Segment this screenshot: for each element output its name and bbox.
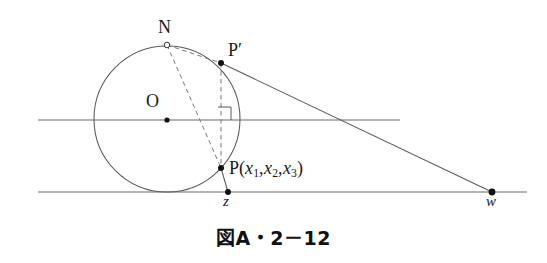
north-pole-point-n: [164, 42, 170, 48]
label-p-paren-close: ): [297, 158, 303, 178]
dashed-line-n-to-pprime: [167, 45, 221, 63]
label-p-var-2: x: [264, 158, 272, 178]
figure-page: N P′ O P(x1,x2,x3) z w 図A・2－12: [0, 0, 547, 263]
label-point-p-coordinates: P(x1,x2,x3): [229, 159, 303, 180]
center-point-o: [164, 117, 169, 122]
label-center-o: O: [146, 92, 159, 110]
point-p: [218, 165, 224, 171]
point-p-prime: [218, 60, 224, 66]
figure-caption: 図A・2－12: [0, 223, 547, 250]
label-p-var-3: x: [283, 158, 291, 178]
label-point-z: z: [223, 194, 229, 209]
right-angle-marker: [218, 107, 231, 120]
dashed-line-n-to-p: [167, 45, 221, 168]
label-north-pole: N: [158, 18, 171, 36]
label-point-w: w: [486, 194, 496, 209]
label-p-prime: P′: [228, 41, 242, 59]
segment-p-to-z: [221, 168, 228, 192]
label-p-var-1: x: [245, 158, 253, 178]
label-p-name: P: [229, 158, 239, 178]
